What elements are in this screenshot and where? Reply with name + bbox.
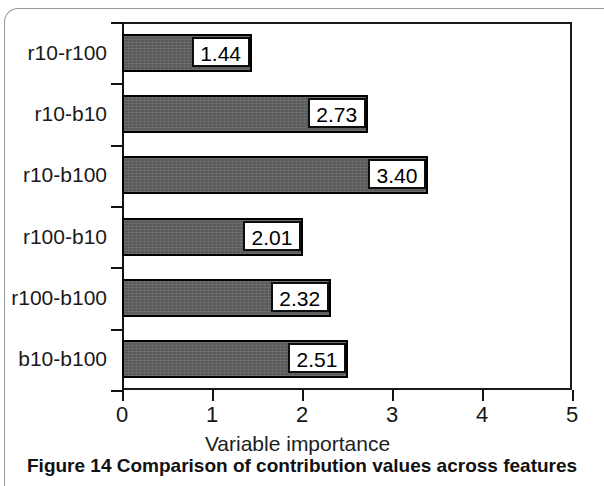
x-axis-tick: [212, 390, 214, 401]
bar-value-label: 2.32: [271, 282, 329, 312]
bar-row: 2.01: [122, 218, 572, 256]
y-axis-tick: [111, 329, 124, 331]
y-axis-tick: [111, 83, 124, 85]
x-axis-tick-label: 1: [206, 402, 218, 428]
bar-value-label: 1.44: [192, 37, 250, 67]
bar-value-label: 2.73: [308, 98, 366, 128]
bar-row: 1.44: [122, 34, 572, 72]
x-axis-tick-label: 2: [296, 402, 308, 428]
bar-row: 2.32: [122, 279, 572, 317]
figure-caption: Figure 14 Comparison of contribution val…: [27, 455, 577, 477]
y-axis-labels: r10-r100r10-b10r10-b100r100-b10r100-b100…: [0, 22, 116, 390]
y-axis-tick: [111, 22, 124, 24]
x-axis-tick-label: 0: [116, 402, 128, 428]
y-axis-tick: [111, 390, 124, 392]
x-axis-tick: [482, 390, 484, 401]
y-axis-tick: [111, 267, 124, 269]
y-axis-tick-label: r10-b10: [35, 95, 107, 133]
x-axis-tick-label: 3: [386, 402, 398, 428]
x-axis: 012345: [0, 390, 595, 436]
bar-row: 2.51: [122, 340, 572, 378]
x-axis-tick-label: 4: [476, 402, 488, 428]
x-axis-tick: [572, 390, 574, 401]
bars-layer: 1.442.733.402.012.322.51: [122, 22, 572, 390]
y-axis-tick-label: r10-b100: [23, 156, 107, 194]
bar-value-label: 2.01: [243, 221, 301, 251]
bar-row: 2.73: [122, 95, 572, 133]
caption-label: Figure 14: [27, 455, 111, 476]
y-axis-tick-label: r10-r100: [28, 34, 107, 72]
x-axis-tick: [392, 390, 394, 401]
caption-body: Comparison of contribution values across…: [117, 455, 577, 476]
x-axis-title: Variable importance: [0, 432, 595, 456]
y-axis-tick-label: r100-b100: [11, 279, 107, 317]
y-axis-tick: [111, 206, 124, 208]
bar-value-label: 3.40: [368, 159, 426, 189]
x-axis-tick-label: 5: [566, 402, 578, 428]
bar-row: 3.40: [122, 156, 572, 194]
y-axis-tick-label: r100-b10: [23, 218, 107, 256]
x-axis-tick: [302, 390, 304, 401]
y-axis-tick: [111, 145, 124, 147]
y-axis-tick-label: b10-b100: [18, 340, 107, 378]
bar-value-label: 2.51: [288, 343, 346, 373]
